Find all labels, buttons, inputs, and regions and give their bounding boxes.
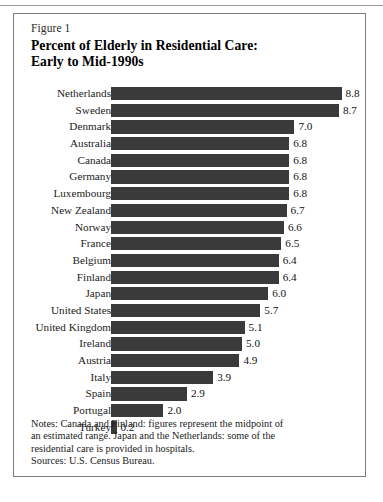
notes-line-2: an estimated range. Japan and the Nether… <box>31 430 353 442</box>
bar-value-label: 6.8 <box>293 153 307 167</box>
bar-value-label: 5.1 <box>249 320 263 334</box>
bar <box>111 237 281 250</box>
bar-track: 6.7 <box>111 204 365 217</box>
category-label: Norway <box>0 220 111 234</box>
notes-line-1: Notes: Canada and Finland: figures repre… <box>31 418 353 430</box>
figure-title: Percent of Elderly in Residential Care: … <box>31 38 351 70</box>
bar-chart: Netherlands8.8Sweden8.7Denmark7.0Austral… <box>14 86 365 436</box>
bar-value-label: 6.8 <box>293 136 307 150</box>
bar <box>111 271 279 284</box>
category-label: Luxembourg <box>0 186 111 200</box>
bar-track: 2.9 <box>111 387 365 400</box>
bar-row: Ireland5.0 <box>14 336 365 353</box>
bar <box>111 337 242 350</box>
bar <box>111 154 289 167</box>
bar-track: 6.4 <box>111 271 365 284</box>
bar <box>111 287 268 300</box>
bar-row: Luxembourg6.8 <box>14 186 365 203</box>
category-label: Austria <box>0 353 111 367</box>
bar <box>111 137 289 150</box>
category-label: Canada <box>0 153 111 167</box>
bar-track: 6.8 <box>111 170 365 183</box>
page-top-rule <box>0 5 383 6</box>
bar <box>111 187 289 200</box>
bar <box>111 254 279 267</box>
category-label: Spain <box>0 386 111 400</box>
bar <box>111 371 213 384</box>
bar-row: Japan6.0 <box>14 286 365 303</box>
bar-track: 6.8 <box>111 137 365 150</box>
category-label: Italy <box>0 370 111 384</box>
bar <box>111 387 187 400</box>
bar-track: 6.8 <box>111 187 365 200</box>
bar-value-label: 6.7 <box>291 203 305 217</box>
category-label: United Kingdom <box>0 320 111 334</box>
category-label: United States <box>0 303 111 317</box>
bar-track: 2.0 <box>111 404 365 417</box>
bar-track: 3.9 <box>111 371 365 384</box>
bar <box>111 221 284 234</box>
bar-row: France6.5 <box>14 236 365 253</box>
bar-value-label: 6.8 <box>293 186 307 200</box>
bar-value-label: 7.0 <box>298 119 312 133</box>
bar-row: United Kingdom5.1 <box>14 320 365 337</box>
category-label: Netherlands <box>0 86 111 100</box>
bar-value-label: 4.9 <box>243 353 257 367</box>
figure-number: Figure 1 <box>31 22 70 34</box>
bar-row: Canada6.8 <box>14 153 365 170</box>
category-label: Finland <box>0 270 111 284</box>
category-label: France <box>0 236 111 250</box>
bar-value-label: 6.0 <box>272 286 286 300</box>
bar-track: 5.0 <box>111 337 365 350</box>
category-label: Germany <box>0 169 111 183</box>
figure-sources: Sources: U.S. Census Bureau. <box>31 455 353 467</box>
bar <box>111 321 245 334</box>
category-label: New Zealand <box>0 203 111 217</box>
bar-value-label: 6.5 <box>285 236 299 250</box>
notes-line-3: residential care is provided in hospital… <box>31 443 353 455</box>
bar-value-label: 5.0 <box>246 336 260 350</box>
bar <box>111 354 239 367</box>
bar-row: New Zealand6.7 <box>14 203 365 220</box>
bar <box>111 170 289 183</box>
category-label: Belgium <box>0 253 111 267</box>
bar <box>111 304 260 317</box>
bar-row: Spain2.9 <box>14 386 365 403</box>
bar <box>111 104 339 117</box>
bar-track: 6.5 <box>111 237 365 250</box>
bar-row: Italy3.9 <box>14 370 365 387</box>
category-label: Japan <box>0 286 111 300</box>
bar <box>111 404 163 417</box>
bar-value-label: 8.8 <box>346 86 360 100</box>
bar-value-label: 6.4 <box>283 270 297 284</box>
category-label: Denmark <box>0 119 111 133</box>
bar-value-label: 2.0 <box>167 403 181 417</box>
bar-track: 6.8 <box>111 154 365 167</box>
bar-row: Sweden8.7 <box>14 103 365 120</box>
bar-row: Denmark7.0 <box>14 119 365 136</box>
bar-value-label: 6.6 <box>288 220 302 234</box>
bar-track: 5.7 <box>111 304 365 317</box>
category-label: Ireland <box>0 336 111 350</box>
bar-value-label: 8.7 <box>343 103 357 117</box>
figure-container: Figure 1 Percent of Elderly in Residenti… <box>13 13 366 477</box>
bar-track: 5.1 <box>111 321 365 334</box>
bar-row: Netherlands8.8 <box>14 86 365 103</box>
bar-row: Belgium6.4 <box>14 253 365 270</box>
bar-track: 8.7 <box>111 104 365 117</box>
bar-row: Norway6.6 <box>14 220 365 237</box>
bar-row: Australia6.8 <box>14 136 365 153</box>
bar-row: Germany6.8 <box>14 169 365 186</box>
category-label: Sweden <box>0 103 111 117</box>
figure-title-line-2: Early to Mid-1990s <box>31 54 351 70</box>
category-label: Portugal <box>0 403 111 417</box>
bar-value-label: 2.9 <box>191 386 205 400</box>
bar-track: 6.4 <box>111 254 365 267</box>
bar-value-label: 6.8 <box>293 169 307 183</box>
bar-value-label: 6.4 <box>283 253 297 267</box>
figure-title-line-1: Percent of Elderly in Residential Care: <box>31 38 258 53</box>
category-label: Australia <box>0 136 111 150</box>
bar-track: 8.8 <box>111 87 365 100</box>
bar-track: 6.6 <box>111 221 365 234</box>
bar-value-label: 5.7 <box>264 303 278 317</box>
